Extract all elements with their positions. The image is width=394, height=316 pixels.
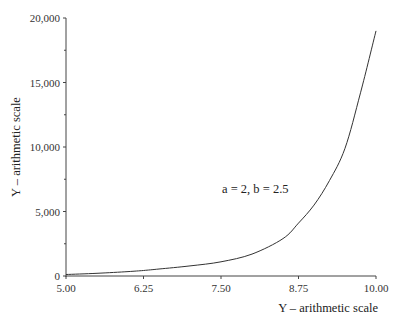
y-axis-ticks: 05,00010,00015,00020,000 (30, 12, 66, 282)
chart: 05,00010,00015,00020,000 5.006.257.508.7… (0, 0, 394, 316)
y-tick-label: 20,000 (30, 12, 61, 24)
curve-annotation: a = 2, b = 2.5 (222, 182, 289, 196)
x-tick-label: 7.50 (211, 282, 231, 294)
y-axis-title: Y – arithmetic scale (9, 97, 23, 197)
y-tick-label: 0 (55, 270, 61, 282)
y-tick-label: 15,000 (30, 77, 61, 89)
y-tick-label: 10,000 (30, 141, 61, 153)
axes (66, 18, 376, 277)
data-line (66, 31, 376, 275)
x-tick-label: 5.00 (56, 282, 76, 294)
x-tick-label: 6.25 (134, 282, 154, 294)
x-tick-label: 8.75 (289, 282, 309, 294)
x-axis-ticks: 5.006.257.508.7510.00 (56, 276, 389, 294)
y-tick-label: 5,000 (35, 206, 60, 218)
x-axis-title: Y – arithmetic scale (278, 301, 378, 315)
x-tick-label: 10.00 (364, 282, 389, 294)
